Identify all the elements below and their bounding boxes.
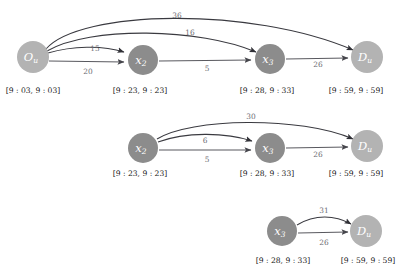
edge-label-26-row1: 26 [313,60,323,69]
edge-origin-to-x2-straight [49,61,124,62]
edge-label-26-row2: 26 [313,150,323,159]
network-diagram: Ou x2 x3 Du 20 15 16 36 5 26 [9 : 03, 9 … [0,0,406,275]
edge-label-6-row2: 6 [203,136,208,145]
edge-label-16: 16 [185,28,195,37]
time-window-dest-row3: [9 : 59, 9 : 59] [341,256,396,265]
time-window-dest-row1: [9 : 59, 9 : 59] [329,86,384,95]
time-window-x2-row2: [9 : 23, 9 : 23] [113,169,168,178]
edge-label-31-row3: 31 [319,206,328,215]
edge-label-26-row3: 26 [319,238,329,247]
edge-x2-to-x3 [159,60,251,61]
graph-canvas: Ou x2 x3 Du 20 15 16 36 5 26 [9 : 03, 9 … [0,0,406,275]
edge-label-36: 36 [172,11,182,20]
time-window-x3-row1: [9 : 28, 9 : 33] [240,86,295,95]
edge-x3-to-dest-row2 [286,147,348,148]
time-window-x3-row2: [9 : 28, 9 : 33] [240,169,295,178]
edge-label-30-row2: 30 [246,112,256,121]
edge-label-15: 15 [90,44,100,53]
row-2-group: x2 x3 Du 5 6 30 26 [9 : 23, 9 : 23] [9 :… [113,112,384,178]
edge-origin-to-x2-curved [48,47,124,53]
edge-label-5-row2: 5 [205,155,210,164]
time-window-origin-row1: [9 : 03, 9 : 03] [6,86,61,95]
time-window-dest-row2: [9 : 59, 9 : 59] [329,169,384,178]
edge-x2-to-dest-arc-row2 [157,122,353,139]
time-window-x3-row3: [9 : 28, 9 : 33] [256,256,311,265]
edge-x3-to-dest-curved-row3 [297,217,351,225]
edge-label-20: 20 [83,67,93,76]
edge-label-5-row1: 5 [205,64,210,73]
edge-x3-to-dest-straight-row3 [298,232,348,233]
row-1-group: Ou x2 x3 Du 20 15 16 36 5 26 [9 : 03, 9 … [6,11,384,95]
edge-x3-to-dest [286,58,348,59]
row-3-group: x3 Du 26 31 [9 : 28, 9 : 33] [9 : 59, 9 … [256,206,396,265]
time-window-x2-row1: [9 : 23, 9 : 23] [113,86,168,95]
